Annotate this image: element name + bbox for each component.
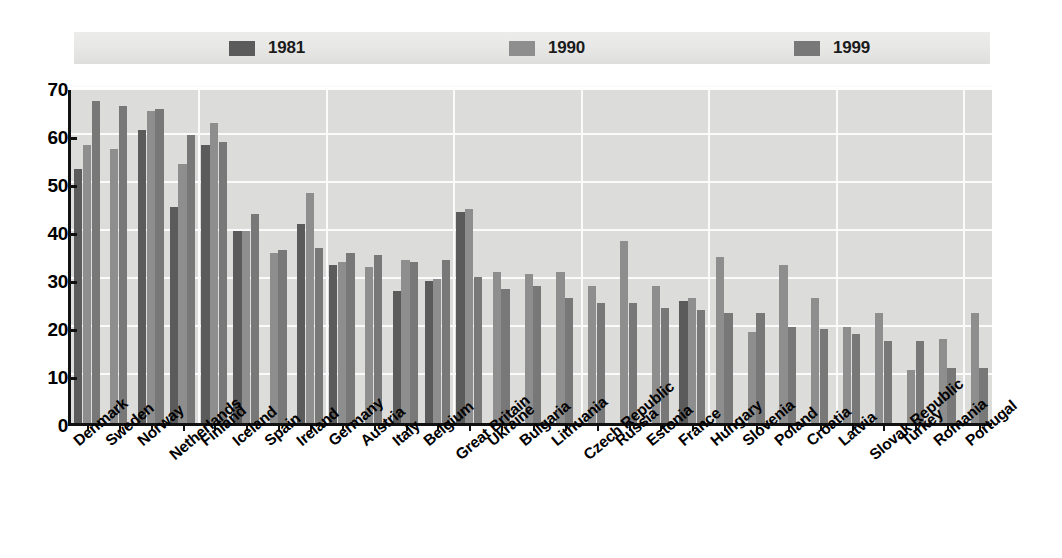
- y-tick-mark: [68, 377, 77, 380]
- y-tick-mark: [68, 137, 77, 140]
- y-tick-mark: [68, 329, 77, 332]
- y-tick-mark: [68, 233, 77, 236]
- y-tick-mark: [68, 185, 77, 188]
- chart-page: 198119901999 010203040506070 DenmarkSwed…: [0, 0, 1062, 558]
- x-axis-labels: DenmarkSwedenNorwayNetherlandsFinlandIce…: [0, 0, 1062, 558]
- y-tick-mark: [68, 281, 77, 284]
